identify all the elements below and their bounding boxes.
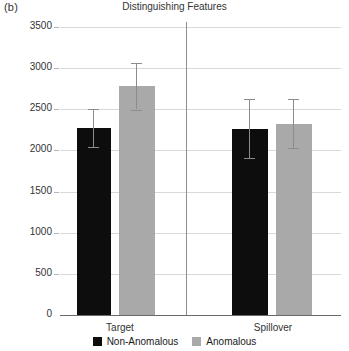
- errorbar-cap-upper: [88, 109, 99, 110]
- y-tick-label: 500: [8, 267, 52, 278]
- legend-swatch-icon: [93, 337, 102, 346]
- y-tick-label: 3500: [8, 20, 52, 31]
- bar-spillover-anomalous[interactable]: [276, 124, 312, 315]
- errorbar-cap-lower: [288, 148, 299, 149]
- errorbar-cap-upper: [288, 99, 299, 100]
- plot-area: [60, 20, 341, 320]
- x-tick-label-target: Target: [75, 322, 165, 333]
- gridline: [60, 68, 341, 69]
- bar-target-non-anomalous[interactable]: [77, 128, 111, 315]
- y-tick-mark: [54, 150, 59, 151]
- y-tick-mark: [54, 274, 59, 275]
- bar-spillover-non-anomalous[interactable]: [232, 129, 268, 316]
- errorbar-target-anomalous: [136, 63, 137, 110]
- errorbar-cap-lower: [244, 158, 255, 159]
- y-tick-mark: [54, 233, 59, 234]
- errorbar-cap-upper: [244, 99, 255, 100]
- x-axis-line: [60, 315, 341, 316]
- errorbar-cap-lower: [131, 110, 142, 111]
- errorbar-cap-lower: [88, 147, 99, 148]
- legend-item-anomalous[interactable]: Anomalous: [192, 336, 256, 347]
- gridline: [60, 109, 341, 110]
- bar-target-anomalous[interactable]: [119, 86, 155, 315]
- gridline: [60, 27, 341, 28]
- y-tick-label: 2500: [8, 102, 52, 113]
- legend-item-non-anomalous[interactable]: Non-Anomalous: [93, 336, 179, 347]
- legend-label: Anomalous: [206, 336, 256, 347]
- errorbar-spillover-anomalous: [293, 99, 294, 148]
- y-tick-mark: [54, 192, 59, 193]
- errorbar-spillover-non-anomalous: [249, 99, 250, 157]
- legend-label: Non-Anomalous: [107, 336, 179, 347]
- group-divider: [186, 22, 187, 315]
- errorbar-target-non-anomalous: [93, 109, 94, 147]
- x-tick-label-spillover: Spillover: [228, 322, 318, 333]
- y-tick-label: 1000: [8, 226, 52, 237]
- legend-swatch-icon: [192, 337, 201, 346]
- y-tick-mark: [54, 109, 59, 110]
- errorbar-cap-upper: [131, 63, 142, 64]
- legend: Non-Anomalous Anomalous: [0, 336, 349, 347]
- y-tick-label: 3000: [8, 61, 52, 72]
- y-tick-mark: [54, 27, 59, 28]
- y-tick-label: 0: [8, 308, 52, 319]
- y-tick-label: 1500: [8, 185, 52, 196]
- chart-title: Distinguishing Features: [0, 1, 349, 12]
- y-tick-label: 2000: [8, 143, 52, 154]
- y-tick-mark: [54, 68, 59, 69]
